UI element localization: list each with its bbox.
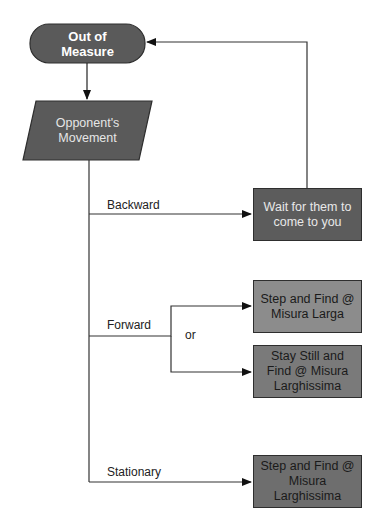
node-stay-still-larghissima: Stay Still and Find @ Misura Larghissima bbox=[253, 345, 362, 398]
flowchart-connectors bbox=[0, 0, 384, 524]
node-opponents-movement: Opponent's Movement bbox=[30, 101, 145, 160]
node-label: Larghissima bbox=[274, 379, 341, 394]
node-label: Misura bbox=[289, 474, 327, 489]
node-label: Movement bbox=[58, 131, 116, 146]
node-label: Stay Still and bbox=[271, 349, 344, 364]
node-label: Find @ Misura bbox=[267, 364, 348, 379]
node-wait-for-them: Wait for them to come to you bbox=[253, 188, 362, 241]
node-label: Step and Find @ bbox=[261, 292, 355, 307]
node-label: Misura Larga bbox=[271, 307, 344, 322]
node-step-misura-larga: Step and Find @ Misura Larga bbox=[253, 280, 362, 333]
edge-label-or: or bbox=[185, 328, 196, 342]
edge-label-backward: Backward bbox=[107, 198, 160, 212]
node-out-of-measure: Out of Measure bbox=[30, 24, 145, 63]
node-label: Wait for them to bbox=[264, 200, 352, 215]
edge-label-forward: Forward bbox=[107, 318, 151, 332]
node-label: Larghissima bbox=[274, 489, 341, 504]
node-label: Measure bbox=[61, 44, 114, 59]
edge-label-stationary: Stationary bbox=[107, 465, 161, 479]
node-label: Opponent's bbox=[56, 116, 120, 131]
node-label: Step and Find @ bbox=[261, 459, 355, 474]
node-step-misura-larghissima: Step and Find @ Misura Larghissima bbox=[253, 455, 362, 508]
node-label: come to you bbox=[273, 215, 341, 230]
node-label: Out of bbox=[68, 29, 106, 44]
